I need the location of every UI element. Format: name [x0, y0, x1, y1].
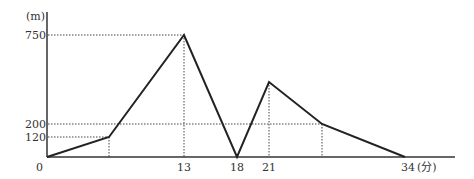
x-tick-21: 21	[262, 161, 276, 174]
y-unit-label: (m)	[26, 10, 45, 23]
distance-time-chart: (m) 750 200 120 0 13 18 21 34 (分)	[0, 0, 474, 179]
data-line	[47, 35, 405, 157]
guide-lines	[48, 35, 322, 157]
x-unit-label: (分)	[417, 161, 437, 174]
y-tick-750: 750	[25, 29, 46, 42]
x-tick-18: 18	[230, 161, 244, 174]
y-tick-120: 120	[25, 131, 46, 144]
x-tick-34: 34	[401, 161, 415, 174]
y-tick-200: 200	[25, 118, 46, 131]
x-tick-13: 13	[177, 161, 191, 174]
origin-label: 0	[36, 161, 43, 174]
